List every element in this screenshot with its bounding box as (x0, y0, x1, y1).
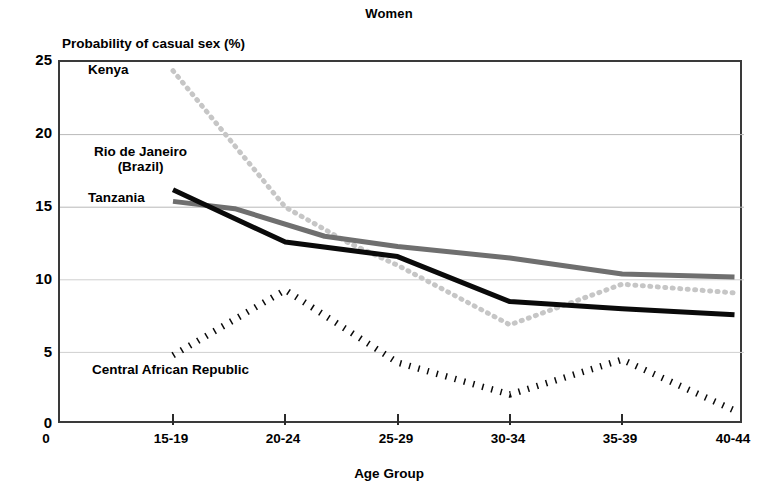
x-tick-25-29: 25-29 (356, 431, 436, 446)
x-tick-15-19: 15-19 (131, 431, 211, 446)
x-tick-20-24: 20-24 (243, 431, 323, 446)
series-label-rio-line2: (Brazil) (94, 159, 187, 174)
y-tick-10: 10 (6, 270, 52, 287)
x-tick-40-44: 40-44 (693, 431, 773, 446)
series-label-tanzania: Tanzania (88, 190, 145, 205)
data-series-layer (173, 71, 735, 411)
series-label-rio-line1: Rio de Janeiro (94, 144, 187, 159)
x-axis-title: Age Group (0, 466, 778, 481)
page-title: Women (0, 6, 778, 21)
series-label-rio-de-janeiro: Rio de Janeiro (Brazil) (94, 144, 187, 174)
chart-root: Women Probability of casual sex (%) 25 2… (0, 0, 778, 502)
x-tick-origin: 0 (26, 431, 66, 446)
y-tick-25: 25 (6, 51, 52, 68)
y-tick-0: 0 (6, 414, 52, 431)
x-axis-ticks (173, 414, 622, 425)
y-axis-title: Probability of casual sex (%) (62, 36, 245, 51)
series-line-kenya (173, 71, 735, 325)
y-tick-15: 15 (6, 197, 52, 214)
y-axis-tick-labels: 25 20 15 10 5 0 (0, 0, 52, 502)
x-tick-30-34: 30-34 (468, 431, 548, 446)
y-tick-5: 5 (6, 343, 52, 360)
x-tick-35-39: 35-39 (580, 431, 660, 446)
series-line-rio-de-janeiro-brazil (173, 201, 735, 277)
y-tick-20: 20 (6, 124, 52, 141)
series-label-central-african-republic: Central African Republic (92, 362, 249, 377)
series-label-kenya: Kenya (88, 62, 129, 77)
